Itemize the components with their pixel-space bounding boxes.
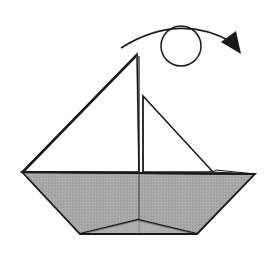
circle-icon xyxy=(161,26,201,66)
arrowhead-icon xyxy=(221,31,241,54)
jib-sail xyxy=(139,56,255,174)
origami-diagram xyxy=(0,0,273,256)
turn-over-arc xyxy=(121,28,232,48)
hull xyxy=(22,172,255,234)
main-sail xyxy=(22,54,139,172)
sailboat-diagram xyxy=(0,0,273,256)
